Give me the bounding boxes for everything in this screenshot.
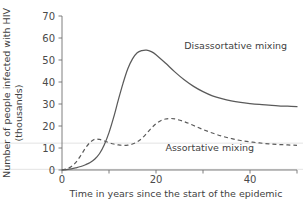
y-axis-tick-labels: 010203040506070	[42, 11, 55, 176]
y-tick-label-40: 40	[42, 77, 55, 88]
y-tick-label-70: 70	[42, 11, 55, 22]
y-tick-label-30: 30	[42, 99, 55, 110]
series-label-disassortative: Disassortative mixing	[184, 40, 287, 51]
x-tick-label-0: 0	[59, 174, 65, 185]
x-tick-label-20: 20	[150, 174, 163, 185]
y-tick-label-0: 0	[49, 165, 55, 176]
y-tick-label-50: 50	[42, 55, 55, 66]
x-tick-label-40: 40	[244, 174, 257, 185]
y-axis-title-line2: (thousands)	[13, 85, 24, 142]
series-label-assortative: Assortative mixing	[165, 142, 254, 153]
x-axis-title: Time in years since the start of the epi…	[69, 188, 283, 199]
chart-canvas: 010203040506070 02040 Disassortative mix…	[0, 0, 303, 212]
x-axis-tick-labels: 02040	[59, 174, 257, 185]
y-tick-label-10: 10	[42, 143, 55, 154]
y-tick-label-20: 20	[42, 121, 55, 132]
y-tick-label-60: 60	[42, 33, 55, 44]
y-axis-title-line1: Number of people infected with HIV	[1, 8, 12, 178]
hiv-epidemic-chart: 010203040506070 02040 Disassortative mix…	[0, 0, 303, 212]
